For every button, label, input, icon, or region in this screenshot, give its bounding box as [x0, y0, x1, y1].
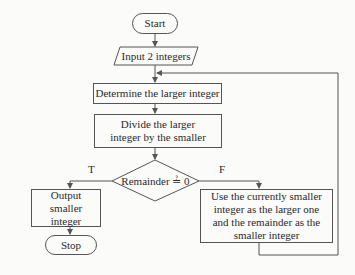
false-label: F [219, 163, 225, 175]
true-label: T [88, 163, 95, 175]
stop-terminal: Stop [45, 235, 97, 255]
determine-step: Determine the larger integer [93, 83, 222, 104]
start-terminal: Start [132, 13, 178, 34]
swap-step: Use the currently smaller integer as the… [200, 189, 333, 243]
input-step: Input 2 integers [114, 47, 198, 65]
decision-remainder: Remainder ≟ 0 [112, 172, 199, 190]
divide-step: Divide the larger integer by the smaller [94, 114, 222, 148]
output-step: Output smaller integer [31, 189, 101, 227]
